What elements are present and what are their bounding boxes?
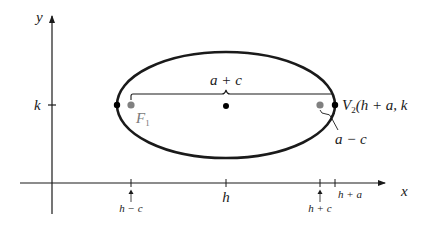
label-a-minus-c: a − c [335,131,367,147]
arrowhead-up-icon [318,190,323,195]
x-tick-label-h-minus-c: h − c [119,202,142,214]
x-axis-label: x [400,183,408,199]
vertex-right-point [332,102,338,108]
focus-left-label: F1 [135,110,150,128]
arrowhead-up-icon [129,190,134,195]
vertex-left-point [114,102,120,108]
brace-label-a-plus-c: a + c [210,72,242,88]
brace-a-plus-c [131,90,333,100]
x-tick-label-h-plus-c: h + c [308,202,331,214]
y-axis-label: y [34,9,43,25]
y-tick-label-k: k [34,97,41,113]
leader-a-minus-c [331,117,338,130]
focus-right-point [316,101,323,108]
center-point [223,103,229,109]
ellipse-diagram: y x k h − c h h + c h + a a + c a − c F1… [0,0,431,228]
x-tick-label-h: h [222,189,230,205]
vertex-right-label: V2(h + a, k [342,97,408,115]
focus-left-point [127,101,134,108]
x-tick-label-h-plus-a: h + a [338,188,362,200]
